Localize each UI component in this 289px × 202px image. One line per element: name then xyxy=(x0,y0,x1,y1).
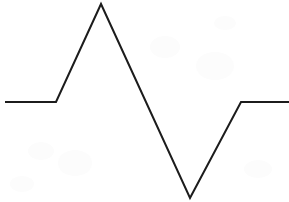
waveform-chart xyxy=(0,0,289,202)
figure-canvas: Line drawing of a waveform with a flat b… xyxy=(0,0,289,202)
waveform-line xyxy=(5,4,289,198)
